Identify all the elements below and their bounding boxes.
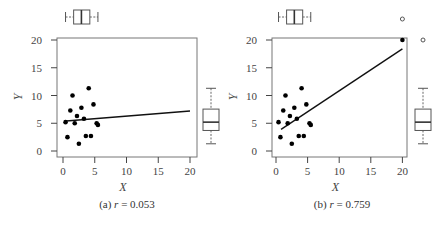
data-point bbox=[89, 134, 94, 139]
caption-a-r-symbol: r bbox=[114, 198, 118, 210]
data-point bbox=[84, 134, 89, 139]
x-axis-label: X bbox=[118, 180, 127, 194]
data-point bbox=[82, 117, 87, 122]
y-tick-label: 5 bbox=[252, 117, 258, 129]
data-point bbox=[86, 86, 91, 91]
y-tick-label: 10 bbox=[246, 90, 258, 102]
data-point bbox=[68, 108, 73, 113]
right-boxplot bbox=[415, 38, 431, 144]
data-point bbox=[75, 114, 80, 119]
y-tick-label: 0 bbox=[252, 145, 258, 157]
x-tick-label: 5 bbox=[305, 165, 311, 177]
data-point bbox=[292, 105, 297, 110]
data-point bbox=[276, 120, 281, 125]
data-point bbox=[63, 120, 68, 125]
caption-a-label: (a) bbox=[99, 198, 111, 210]
top-boxplot bbox=[66, 10, 98, 24]
data-point bbox=[290, 141, 295, 146]
y-tick-label: 5 bbox=[37, 117, 43, 129]
regression-line bbox=[281, 49, 402, 129]
data-point bbox=[91, 102, 96, 107]
caption-b-r-value: = 0.759 bbox=[336, 198, 370, 210]
data-point bbox=[400, 38, 405, 43]
y-tick-label: 0 bbox=[37, 145, 43, 157]
panel-b: 0510152005101520XY bbox=[226, 10, 431, 194]
y-tick-label: 20 bbox=[31, 34, 43, 46]
x-tick-label: 10 bbox=[121, 165, 133, 177]
data-point bbox=[302, 134, 307, 139]
panel-a: 0510152005101520XY bbox=[11, 10, 219, 194]
x-tick-label: 0 bbox=[60, 165, 66, 177]
data-point bbox=[308, 123, 313, 128]
y-tick-label: 15 bbox=[31, 62, 43, 74]
x-tick-label: 15 bbox=[153, 165, 165, 177]
box bbox=[203, 109, 219, 130]
data-point bbox=[96, 123, 101, 128]
data-point bbox=[288, 114, 293, 119]
data-point bbox=[278, 135, 283, 140]
data-point bbox=[77, 141, 82, 146]
data-point bbox=[79, 105, 84, 110]
caption-b-r-symbol: r bbox=[329, 198, 333, 210]
x-axis-label: X bbox=[331, 180, 340, 194]
y-axis-label: Y bbox=[226, 92, 240, 100]
caption-a-r-value: = 0.053 bbox=[121, 198, 155, 210]
caption-b-label: (b) bbox=[314, 198, 327, 210]
y-tick-label: 20 bbox=[246, 34, 258, 46]
data-point bbox=[296, 134, 301, 139]
y-tick-label: 15 bbox=[246, 62, 258, 74]
top-boxplot bbox=[279, 10, 405, 24]
x-tick-label: 15 bbox=[365, 165, 377, 177]
data-point bbox=[299, 86, 304, 91]
x-tick-label: 20 bbox=[185, 165, 197, 177]
figure: 0510152005101520XY 0510152005101520XY bbox=[0, 0, 448, 225]
data-point bbox=[283, 93, 288, 98]
data-point bbox=[65, 135, 70, 140]
data-point bbox=[295, 117, 300, 122]
x-tick-label: 5 bbox=[92, 165, 98, 177]
y-tick-label: 10 bbox=[31, 90, 43, 102]
caption-a: (a) r = 0.053 bbox=[57, 198, 197, 210]
caption-b: (b) r = 0.759 bbox=[272, 198, 412, 210]
box bbox=[415, 109, 431, 130]
x-tick-label: 20 bbox=[397, 165, 409, 177]
x-tick-label: 0 bbox=[273, 165, 279, 177]
right-boxplot bbox=[203, 88, 219, 144]
y-axis-label: Y bbox=[11, 92, 25, 100]
data-point bbox=[285, 121, 290, 126]
data-point bbox=[281, 108, 286, 113]
data-point bbox=[70, 93, 75, 98]
outlier-marker bbox=[400, 17, 404, 21]
data-point bbox=[304, 102, 309, 107]
outlier-marker bbox=[421, 38, 425, 42]
plot-frame bbox=[272, 38, 407, 157]
data-point bbox=[72, 121, 77, 126]
x-tick-label: 10 bbox=[334, 165, 346, 177]
plot-frame bbox=[57, 38, 197, 157]
